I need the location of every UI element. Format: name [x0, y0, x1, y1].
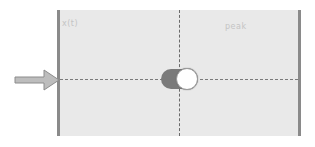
right-arrow-icon: [14, 68, 60, 92]
toggle-switch-knob[interactable]: [176, 68, 198, 90]
right-border-bar: [298, 10, 301, 136]
left-label: x(t): [62, 19, 78, 28]
right-label: peak: [225, 22, 247, 31]
